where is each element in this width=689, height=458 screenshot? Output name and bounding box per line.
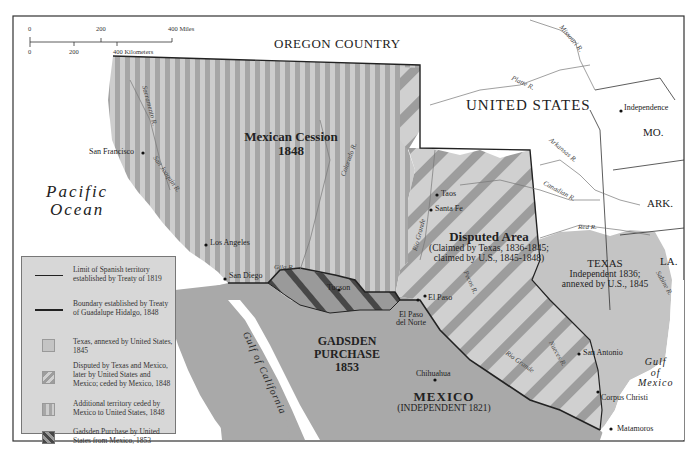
river-gila: Gila R. — [274, 264, 294, 271]
cession-swatch-icon — [42, 403, 55, 416]
city-el-paso-del-norte: El Paso del Norte — [396, 311, 426, 328]
legend: Limit of Spanish territory established b… — [21, 256, 176, 434]
label-mo: MO. — [643, 127, 663, 139]
pacific-line1: Pacific — [46, 183, 108, 201]
scale-km-200: 200 — [69, 49, 79, 56]
gulf-mexico-line3: Mexico — [638, 378, 673, 389]
mexican-cession-name: Mexican Cession — [242, 130, 340, 144]
gulf-mexico-line1: Gulf — [638, 357, 673, 368]
legend-text: Boundary established by Treaty of Guadal… — [73, 299, 173, 317]
disputed-area-name: Disputed Area — [418, 230, 560, 244]
city-matamoros: Matamoros — [617, 425, 653, 433]
legend-text: Limit of Spanish territory established b… — [73, 265, 173, 283]
scale-miles-400: 400 Miles — [168, 26, 194, 33]
scale-km-0: 0 — [28, 49, 31, 56]
city-san-antonio: San Antonio — [583, 349, 623, 357]
disputed-area-line2: claimed by U.S., 1845-1848) — [418, 254, 560, 264]
mexico-name: MEXICO — [384, 390, 504, 404]
label-united-states: UNITED STATES — [466, 98, 591, 114]
label-disputed-area: Disputed Area (Claimed by Texas, 1836-18… — [418, 230, 560, 264]
city-san-francisco: San Francisco — [89, 148, 134, 156]
pacific-line2: Ocean — [46, 201, 108, 219]
city-san-diego: San Diego — [229, 272, 263, 280]
city-santa-fe: Santa Fe — [435, 205, 463, 213]
mexican-cession-year: 1848 — [242, 144, 340, 158]
disputed-swatch-icon — [42, 371, 55, 384]
gadsden-year: 1853 — [302, 361, 392, 374]
legend-text: Disputed by Texas and Mexico, later by U… — [73, 361, 173, 388]
line-thin-icon — [35, 275, 63, 276]
texas-line2: annexed by U.S., 1845 — [545, 280, 665, 290]
gadsden-swatch-icon — [42, 431, 55, 444]
line-thick-icon — [35, 309, 63, 311]
label-gulf-of-mexico: Gulf of Mexico — [638, 357, 673, 389]
city-chihuahua: Chihuahua — [416, 370, 451, 378]
label-ark: ARK. — [647, 198, 673, 210]
legend-text: Texas, annexed by United States, 1845 — [73, 337, 173, 355]
city-taos: Taos — [441, 190, 456, 198]
scale-km-400: 400 Kilometers — [113, 49, 153, 56]
city-los-angeles: Los Angeles — [210, 239, 250, 247]
label-gadsden-purchase: GADSDEN PURCHASE 1853 — [302, 335, 392, 375]
el-paso-norte-line2: del Norte — [396, 319, 426, 327]
label-oregon-country: OREGON COUNTRY — [274, 37, 401, 51]
mexico-sub: (INDEPENDENT 1821) — [384, 404, 504, 414]
city-tucson: Tucson — [327, 284, 350, 292]
river-red: Red R. — [578, 224, 597, 231]
city-el-paso: El Paso — [428, 294, 452, 302]
texas-swatch-icon — [42, 339, 55, 352]
texas-name: TEXAS — [545, 258, 665, 270]
label-texas: TEXAS Independent 1836; annexed by U.S.,… — [545, 258, 665, 289]
label-pacific-ocean: Pacific Ocean — [46, 183, 108, 219]
legend-text: Gadsden Purchase by United States from M… — [73, 427, 173, 445]
scale-miles-200: 200 — [96, 26, 106, 33]
city-independence: Independence — [624, 104, 668, 112]
label-mexico: MEXICO (INDEPENDENT 1821) — [384, 390, 504, 414]
legend-text: Additional territory ceded by Mexico to … — [73, 399, 173, 417]
city-corpus-christi: Corpus Christi — [601, 394, 648, 402]
scale-miles-0: 0 — [28, 26, 31, 33]
label-la: LA. — [660, 256, 677, 268]
label-mexican-cession: Mexican Cession 1848 — [242, 130, 340, 157]
